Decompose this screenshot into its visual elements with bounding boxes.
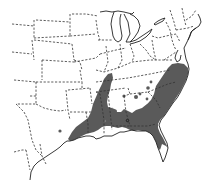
outlier-dot: [146, 86, 150, 90]
range-map: Species range map, southeastern United S…: [0, 0, 210, 182]
map-canvas: [0, 0, 210, 182]
outlier-dot: [146, 98, 149, 101]
outlier-dot: [150, 81, 153, 84]
outlier-dot: [134, 95, 138, 99]
outlier-dot: [58, 129, 61, 132]
